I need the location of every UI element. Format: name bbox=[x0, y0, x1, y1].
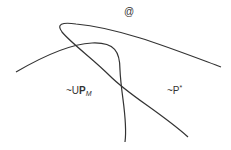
curves-svg bbox=[0, 0, 231, 150]
label-left: ~UPM bbox=[66, 86, 92, 97]
label-left-prefix: ~U bbox=[66, 85, 79, 96]
diagram-canvas: @ ~UPM ~P* bbox=[0, 0, 231, 150]
label-right-superscript: * bbox=[180, 84, 183, 91]
label-right: ~P* bbox=[167, 84, 182, 96]
top-symbol: @ bbox=[124, 7, 134, 17]
at-symbol: @ bbox=[124, 6, 134, 17]
label-left-subscript: M bbox=[86, 90, 92, 97]
label-left-bold: P bbox=[79, 85, 86, 96]
loop-curve bbox=[60, 23, 221, 137]
label-right-prefix: ~P bbox=[167, 85, 180, 96]
